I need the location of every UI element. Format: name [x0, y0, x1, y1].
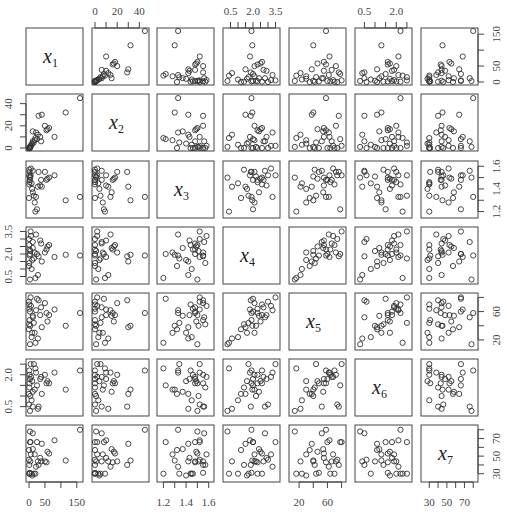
diagonal-label-panel: x4: [223, 227, 280, 284]
scatter-panel: [355, 94, 412, 151]
scatter-panel: [421, 293, 478, 350]
axis-tick-label: 20: [112, 5, 124, 17]
panel-frame: [355, 94, 412, 151]
scatter-panel: [157, 425, 214, 482]
axis-tick-label: 1.4: [490, 182, 502, 196]
scatter-panel: [223, 425, 280, 482]
scatter-panel: [223, 161, 280, 218]
axis-tick-label: 1.2: [490, 205, 502, 219]
panel-frame: [92, 161, 149, 218]
scatter-panel: [421, 161, 478, 218]
scatter-panel: [157, 227, 214, 284]
axis-tick-label: 150: [69, 496, 86, 508]
scatter-panel: [92, 28, 149, 85]
axis-tick-label: 50: [490, 450, 502, 462]
scatter-panel: [92, 425, 149, 482]
scatter-panel: [26, 161, 83, 218]
axis-tick-label: 20: [490, 334, 502, 346]
axis-tick-label: 70: [459, 496, 471, 508]
axis-tick-label: 20: [294, 496, 306, 508]
scatter-panel: [355, 425, 412, 482]
scatter-panel: [157, 28, 214, 85]
axis-tick-label: 50: [39, 496, 51, 508]
scatter-panel: [92, 359, 149, 416]
axis-tick-label: 40: [2, 98, 14, 110]
panel-frame: [26, 359, 83, 416]
scatter-panel: [289, 359, 346, 416]
panel-frame: [355, 28, 412, 85]
scatter-panel: [157, 359, 214, 416]
axis-tick-label: 0: [92, 5, 98, 17]
axis-tick-label: 20: [2, 120, 14, 131]
axis-tick-label: 60: [322, 496, 334, 508]
panel-frame: [289, 94, 346, 151]
scatter-panel: [355, 28, 412, 85]
panel-frame: [92, 293, 149, 350]
axis-tick-label: 2.0: [2, 367, 14, 381]
axis-tick-label: 0.5: [224, 5, 238, 17]
axis-tick-label: 0.5: [358, 5, 372, 17]
axis-tick-label: 50: [441, 496, 453, 508]
axis-tick-label: 0: [26, 496, 32, 508]
axis-tick-label: 0.5: [2, 399, 14, 413]
diagonal-label-panel: x7: [421, 425, 478, 482]
axis-tick-label: 40: [134, 5, 146, 17]
scatter-panel: [26, 359, 83, 416]
scatter-panel: [92, 227, 149, 284]
scatter-panel: [355, 293, 412, 350]
scatter-panel: [223, 293, 280, 350]
axis-tick-label: 3.5: [2, 224, 14, 238]
scatter-panel: [26, 227, 83, 284]
axis-tick-label: 2.0: [389, 5, 403, 17]
diagonal-label-panel: x3: [157, 161, 214, 218]
scatter-panel: [289, 227, 346, 284]
axis-tick-label: 0: [2, 145, 14, 151]
scatter-panel: [223, 359, 280, 416]
panel-frame: [421, 28, 478, 85]
axis-tick-label: 1.2: [157, 496, 171, 508]
axis-tick-label: 50: [490, 60, 502, 72]
panel-frame: [157, 94, 214, 151]
axis-tick-label: 150: [490, 25, 502, 42]
scatter-panel: [289, 425, 346, 482]
scatter-panel: [223, 28, 280, 85]
axis-tick-label: 1.6: [202, 496, 216, 508]
scatter-panel: [355, 161, 412, 218]
scatter-panel: [157, 94, 214, 151]
scatter-panel: [26, 94, 83, 151]
axis-tick-label: 0: [490, 79, 502, 85]
axis-tick-label: 1.4: [179, 496, 193, 508]
scatter-panel: [92, 161, 149, 218]
scatter-panel: [421, 28, 478, 85]
scatter-panel: [421, 227, 478, 284]
scatter-panel: [355, 227, 412, 284]
axis-tick-label: 30: [424, 496, 436, 508]
diagonal-label-panel: x2: [92, 94, 149, 151]
scatter-panel: [26, 293, 83, 350]
diagonal-label-panel: x6: [355, 359, 412, 416]
scatter-panel: [289, 94, 346, 151]
scatter-panel: [289, 28, 346, 85]
panel-frame: [92, 359, 149, 416]
axis-tick-label: 1.6: [490, 159, 502, 173]
axis-tick-label: 70: [490, 433, 502, 445]
scatter-panel: [289, 161, 346, 218]
axis-tick-label: 30: [490, 468, 502, 480]
scatter-panel: [421, 359, 478, 416]
scatter-panel: [92, 293, 149, 350]
scatter-panel: [157, 293, 214, 350]
scatter-panel: [223, 94, 280, 151]
diagonal-label-panel: x5: [289, 293, 346, 350]
scatterplot-matrix: x1x2x3x4x5x6x705015005015002040020401.21…: [0, 0, 507, 524]
panel-frame: [289, 28, 346, 85]
scatter-panel: [421, 94, 478, 151]
diagonal-label-panel: x1: [26, 28, 83, 85]
axis-tick-label: 2.0: [2, 247, 14, 261]
axis-tick-label: 60: [490, 306, 502, 318]
axis-tick-label: 0.5: [2, 269, 14, 283]
axis-tick-label: 3.5: [269, 5, 283, 17]
scatter-panel: [26, 425, 83, 482]
axis-tick-label: 2.0: [246, 5, 260, 17]
panel-frame: [26, 293, 83, 350]
